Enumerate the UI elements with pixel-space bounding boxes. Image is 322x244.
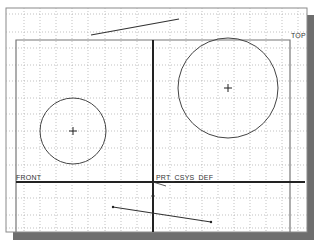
front-plane-label: FRONT — [16, 174, 42, 181]
csys-label: PRT_CSYS_DEF — [156, 174, 213, 182]
frame-shadow-bottom — [13, 232, 314, 240]
grid-frame — [6, 8, 307, 232]
lower-line-end-point[interactable] — [210, 221, 212, 223]
sketch-viewport[interactable]: TOP FRONT PRT_CSYS_DEF — [0, 0, 322, 244]
frame-shadow-right — [307, 15, 314, 240]
top-plane-label: TOP — [291, 32, 306, 39]
lower-line-start-point[interactable] — [112, 206, 114, 208]
